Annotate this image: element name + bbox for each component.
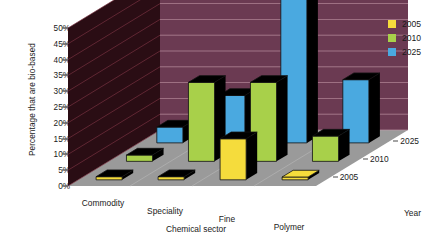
x-axis-tick-label: Speciality: [147, 206, 183, 216]
z-axis-tick-label: 2025: [400, 136, 419, 146]
z-axis-tick-mark: [333, 177, 338, 178]
scene-svg: [0, 0, 444, 244]
plot-area: [0, 0, 444, 244]
legend-swatch-icon: [388, 34, 396, 42]
z-axis-title: Year: [404, 208, 421, 218]
legend-item[interactable]: 2010: [388, 32, 421, 44]
x-axis-tick-label: Fine: [219, 214, 235, 224]
legend-swatch-icon: [388, 48, 396, 56]
z-axis-tick-mark: [363, 159, 368, 160]
bar-chart-3d: Percentage that are bio-based 0%5%10%15%…: [0, 0, 444, 244]
legend-item[interactable]: 2025: [388, 46, 421, 58]
legend-item[interactable]: 2005: [388, 18, 421, 30]
legend-label: 2010: [402, 34, 421, 43]
legend-swatch-icon: [388, 20, 396, 28]
z-axis-tick-label: 2010: [370, 154, 389, 164]
x-axis-tick-label: Commodity: [82, 198, 124, 208]
legend-label: 2005: [402, 20, 421, 29]
z-axis-tick-mark: [393, 140, 398, 141]
legend: 200520102025: [388, 18, 421, 60]
z-axis-tick-label: 2005: [340, 172, 359, 182]
x-axis-tick-label: Polymer: [274, 222, 305, 232]
legend-label: 2025: [402, 48, 421, 57]
x-axis-title: Chemical sector: [166, 224, 226, 234]
